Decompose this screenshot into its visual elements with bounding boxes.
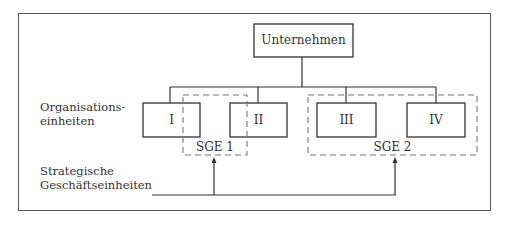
unit-label-iv: IV	[407, 113, 465, 127]
sge1-label: SGE 1	[183, 140, 247, 154]
unit-label-i: I	[143, 113, 200, 127]
arrow-up-icon	[212, 157, 217, 163]
sge2-label: SGE 2	[308, 140, 477, 154]
side-label-org-line2: einheiten	[40, 114, 95, 128]
unit-label-iii: III	[317, 113, 376, 127]
side-label-sge-line2: Geschäftseinheiten	[40, 178, 152, 192]
side-label-sge-line1: Strategische	[40, 164, 114, 178]
unit-label-ii: II	[230, 113, 287, 127]
node-unternehmen-label: Unternehmen	[254, 33, 353, 47]
arrow-up-icon	[393, 157, 398, 163]
side-label-org-line1: Organisations-	[40, 100, 125, 114]
